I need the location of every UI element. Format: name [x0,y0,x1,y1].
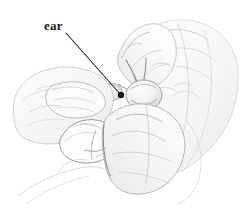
specimen-illustration [0,0,242,220]
label-ear: ear [44,19,63,32]
figure-container: ear [0,0,242,220]
